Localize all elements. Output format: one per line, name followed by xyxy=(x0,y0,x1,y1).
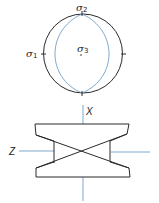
x-axis-label: X xyxy=(85,106,93,117)
sigma2-subscript: 2 xyxy=(83,6,87,14)
stereonet: σ 2 σ 1 σ 3 xyxy=(26,2,126,96)
lower-block xyxy=(36,162,130,177)
z-axis-label: Z xyxy=(8,146,16,157)
diagram-canvas: σ 2 σ 1 σ 3 X Z xyxy=(0,0,159,203)
sigma1-subscript: 1 xyxy=(33,52,37,60)
label-sigma3: σ 3 xyxy=(77,43,88,55)
center-point xyxy=(80,54,82,56)
sigma3-subscript: 3 xyxy=(84,47,88,55)
block-diagram: X Z xyxy=(8,105,150,201)
label-sigma1: σ 1 xyxy=(26,48,37,60)
label-sigma2: σ 2 xyxy=(76,2,87,14)
